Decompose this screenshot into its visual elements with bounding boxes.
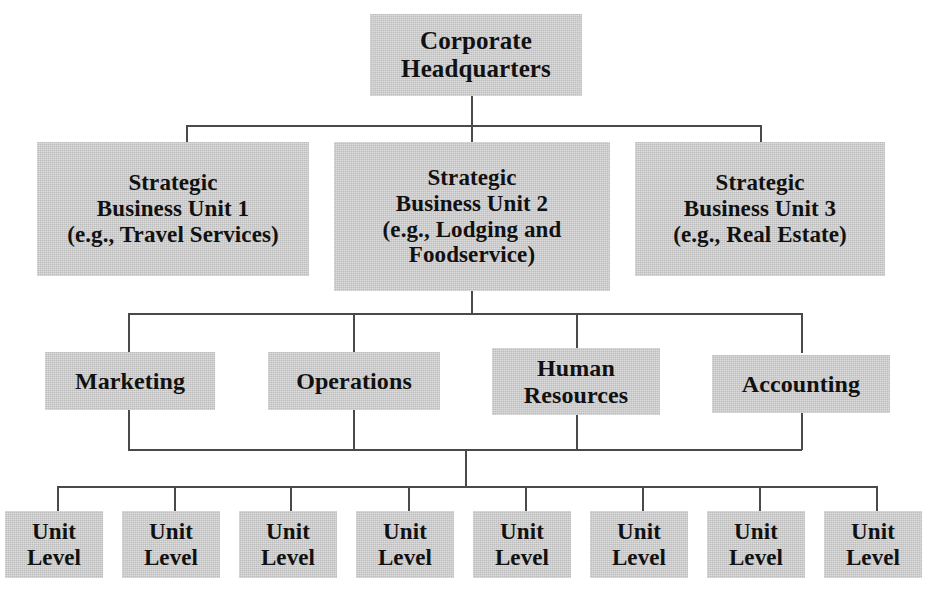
connector-riser-marketing (128, 410, 130, 450)
connector-drop-unit2 (174, 486, 176, 512)
connector-drop-unit7 (759, 486, 761, 512)
node-strategic-business-unit-2: Strategic Business Unit 2 (e.g., Lodging… (334, 142, 610, 291)
node-human-resources: Human Resources (492, 348, 660, 415)
connector-drop-marketing (128, 313, 130, 353)
node-unit-level-3: Unit Level (239, 511, 337, 578)
connector-drop-sbu2 (471, 125, 473, 143)
node-unit-level-5: Unit Level (473, 511, 571, 578)
node-strategic-business-unit-3: Strategic Business Unit 3 (e.g., Real Es… (635, 142, 885, 276)
node-unit-level-8: Unit Level (824, 511, 922, 578)
connector-drop-human-resources (576, 313, 578, 349)
node-accounting: Accounting (712, 355, 890, 413)
node-unit-level-6: Unit Level (590, 511, 688, 578)
node-unit-level-4: Unit Level (356, 511, 454, 578)
connector-drop-unit5 (525, 486, 527, 512)
node-unit-level-7: Unit Level (707, 511, 805, 578)
node-marketing: Marketing (45, 352, 215, 410)
node-corporate-headquarters: Corporate Headquarters (370, 14, 582, 96)
connector-drop-accounting (801, 313, 803, 353)
connector-drop-sbu1 (186, 125, 188, 143)
node-operations: Operations (268, 352, 440, 410)
node-unit-level-2: Unit Level (122, 511, 220, 578)
connector-drop-unit8 (876, 486, 878, 512)
connector-drop-unit4 (408, 486, 410, 512)
connector-sbu-bus (186, 125, 761, 127)
connector-riser-accounting (801, 413, 803, 450)
org-chart-diagram: Corporate Headquarters Strategic Busines… (0, 0, 935, 597)
connector-drop-sbu3 (760, 125, 762, 143)
connector-unit-bus (57, 486, 877, 488)
connector-riser-human-resources (576, 415, 578, 450)
connector-drop-unit3 (290, 486, 292, 512)
node-unit-level-1: Unit Level (5, 511, 103, 578)
connector-hq-stem (471, 96, 473, 126)
connector-functional-bus (128, 313, 802, 315)
connector-sbu2-stem (471, 291, 473, 314)
connector-drop-unit1 (57, 486, 59, 512)
connector-unit-stem (465, 449, 467, 487)
node-strategic-business-unit-1: Strategic Business Unit 1 (e.g., Travel … (37, 142, 309, 276)
connector-drop-unit6 (642, 486, 644, 512)
connector-drop-operations (353, 313, 355, 353)
connector-riser-operations (353, 410, 355, 450)
